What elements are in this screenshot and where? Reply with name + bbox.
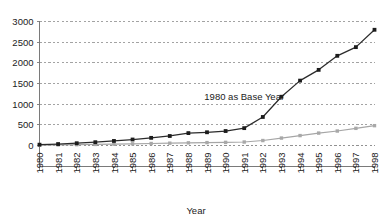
data-point-secondary-index	[280, 136, 283, 139]
data-point-primary-index	[317, 68, 321, 72]
y-tick-label: 2000	[12, 57, 33, 68]
data-point-secondary-index	[373, 124, 376, 127]
data-point-primary-index	[224, 129, 228, 133]
data-point-primary-index	[186, 131, 190, 135]
x-tick-label: 1991	[239, 152, 250, 173]
x-tick-label: 1980	[34, 152, 45, 173]
data-point-primary-index	[93, 140, 97, 144]
data-point-secondary-index	[205, 141, 208, 144]
chart-container: 050010001500200025003000 198019811982198…	[0, 0, 382, 220]
x-tick-label: 1988	[183, 152, 194, 173]
data-point-secondary-index	[149, 142, 152, 145]
x-tick-label: 1996	[332, 152, 343, 173]
data-point-primary-index	[354, 45, 358, 49]
series-line-primary-index	[40, 30, 375, 145]
x-tick-label: 1981	[53, 152, 64, 173]
x-axis-title: Year	[186, 205, 205, 216]
x-tick-label: 1982	[71, 152, 82, 173]
data-point-secondary-index	[298, 134, 301, 137]
y-tick-label: 0	[28, 140, 33, 151]
data-point-secondary-index	[187, 141, 190, 144]
annotation-label: 1980 as Base Year	[204, 91, 284, 102]
x-tick-label: 1994	[295, 152, 306, 173]
data-point-secondary-index	[224, 141, 227, 144]
data-point-primary-index	[149, 136, 153, 140]
data-point-primary-index	[131, 138, 135, 142]
x-tick-label: 1990	[220, 152, 231, 173]
x-tick-label: 1985	[127, 152, 138, 173]
y-tick-label: 1000	[12, 99, 33, 110]
x-tick-label: 1993	[276, 152, 287, 173]
data-point-primary-index	[168, 134, 172, 138]
data-point-primary-index	[335, 54, 339, 58]
x-tick-label: 1997	[350, 152, 361, 173]
data-point-secondary-index	[112, 142, 115, 145]
x-tick-label: 1989	[202, 152, 213, 173]
data-point-primary-index	[38, 143, 42, 147]
x-tick-label: 1998	[369, 152, 380, 173]
chart-annotations: 1980 as Base Year	[204, 91, 284, 102]
data-point-primary-index	[242, 126, 246, 130]
x-tick-label: 1986	[146, 152, 157, 173]
data-point-primary-index	[261, 115, 265, 119]
data-point-secondary-index	[243, 140, 246, 143]
data-point-primary-index	[56, 142, 60, 146]
gridlines	[40, 22, 375, 146]
data-point-primary-index	[112, 139, 116, 143]
x-tick-label: 1984	[109, 152, 120, 173]
data-point-secondary-index	[261, 139, 264, 142]
x-tick-label: 1987	[164, 152, 175, 173]
y-tick-label: 2500	[12, 37, 33, 48]
y-tick-label: 500	[18, 119, 34, 130]
data-point-secondary-index	[317, 131, 320, 134]
x-tick-label: 1983	[90, 152, 101, 173]
data-point-secondary-index	[354, 127, 357, 130]
data-series	[38, 28, 377, 147]
y-tick-label: 1500	[12, 78, 33, 89]
data-point-secondary-index	[336, 129, 339, 132]
data-point-primary-index	[298, 79, 302, 83]
y-tick-label: 3000	[12, 16, 33, 27]
line-chart: 050010001500200025003000 198019811982198…	[0, 0, 382, 220]
data-point-primary-index	[373, 28, 377, 32]
data-point-primary-index	[205, 130, 209, 134]
data-point-primary-index	[75, 141, 79, 145]
data-point-secondary-index	[168, 141, 171, 144]
x-axis-tick-labels: 1980198119821983198419851986198719881989…	[34, 152, 380, 173]
x-tick-label: 1995	[313, 152, 324, 173]
data-point-secondary-index	[131, 142, 134, 145]
x-tick-label: 1992	[257, 152, 268, 173]
y-axis-tick-labels: 050010001500200025003000	[12, 16, 33, 151]
